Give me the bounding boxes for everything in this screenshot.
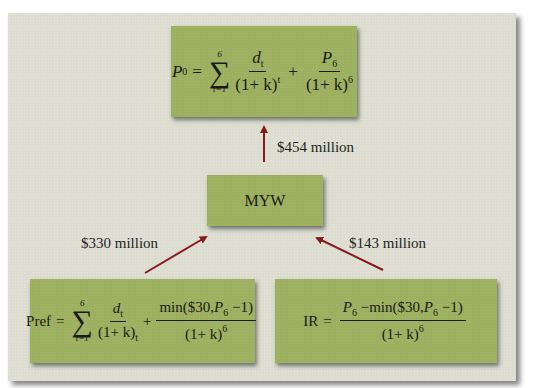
- arrows-layer: [0, 0, 534, 388]
- arrow-label-454: $454 million: [277, 139, 354, 156]
- arrow-label-143: $143 million: [349, 235, 426, 252]
- arrow-label-330: $330 million: [81, 235, 158, 252]
